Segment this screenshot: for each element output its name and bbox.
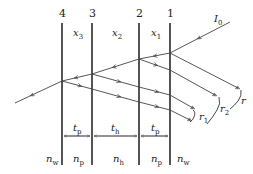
region-label-x1: x1 bbox=[151, 27, 161, 41]
region-label-x3: x3 bbox=[73, 27, 83, 41]
bracket-r2 bbox=[207, 97, 220, 124]
boundary-label-2: 2 bbox=[136, 7, 143, 20]
index-label-np-left: np bbox=[73, 153, 84, 167]
boundary-label-1: 1 bbox=[167, 7, 174, 20]
boundary-label-3: 3 bbox=[89, 7, 96, 20]
thickness-label-tp-right: tp bbox=[151, 122, 160, 136]
thickness-label-tp-left: tp bbox=[73, 122, 82, 136]
region-label-x2: x2 bbox=[112, 27, 122, 41]
label-r: r bbox=[241, 95, 247, 106]
reflected-ray-r bbox=[170, 53, 238, 88]
incident-ray bbox=[170, 22, 230, 53]
boundary-label-4: 4 bbox=[59, 7, 66, 20]
multilayer-reflection-diagram: 4 3 2 1 x3 x2 x1 I0 bbox=[0, 0, 253, 174]
label-r1: r1 bbox=[199, 111, 208, 125]
index-label-nw-right: nw bbox=[177, 153, 189, 167]
incident-label: I0 bbox=[213, 13, 222, 27]
index-label-nw-left: nw bbox=[46, 153, 58, 167]
bracket-r1 bbox=[190, 110, 195, 122]
index-label-nh: nh bbox=[113, 153, 124, 167]
bracket-r bbox=[230, 90, 241, 109]
label-r2: r2 bbox=[220, 103, 229, 117]
index-label-np-right: np bbox=[151, 153, 162, 167]
thickness-label-th: th bbox=[111, 122, 120, 136]
